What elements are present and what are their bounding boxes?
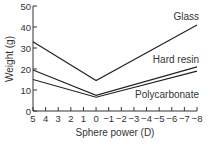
- y-tick-label: 30: [20, 43, 31, 54]
- series-label-polycarbonate: Polycarbonate: [135, 89, 199, 100]
- x-tick-label: 3: [56, 113, 61, 124]
- series-label-glass: Glass: [173, 11, 199, 22]
- x-tick-label: −5: [154, 113, 165, 124]
- x-tick-label: −4: [141, 113, 152, 124]
- chart-container: 01020304050543210−1−2−3−4−5−6−7−8 Glass …: [0, 0, 210, 150]
- x-tick-label: 1: [81, 113, 86, 124]
- x-tick-label: 2: [68, 113, 73, 124]
- x-axis-title: Sphere power (D): [76, 127, 155, 138]
- x-tick-label: −1: [103, 113, 114, 124]
- line-chart: 01020304050543210−1−2−3−4−5−6−7−8 Glass …: [0, 0, 210, 150]
- y-tick-label: 40: [20, 22, 31, 33]
- x-tick-label: −2: [116, 113, 127, 124]
- y-tick-label: 20: [20, 64, 31, 75]
- x-tick-label: 5: [30, 113, 35, 124]
- series-label-hard-resin: Hard resin: [153, 54, 199, 65]
- x-tick-label: −6: [166, 113, 177, 124]
- x-tick-label: 0: [93, 113, 98, 124]
- x-tick-label: −8: [192, 113, 203, 124]
- x-tick-label: −7: [179, 113, 190, 124]
- y-tick-label: 10: [20, 85, 31, 96]
- y-tick-label: 50: [20, 1, 31, 12]
- x-tick-label: 4: [43, 113, 48, 124]
- y-axis-title: Weight (g): [4, 36, 15, 82]
- x-tick-label: −3: [129, 113, 140, 124]
- series-line-glass: [33, 25, 197, 81]
